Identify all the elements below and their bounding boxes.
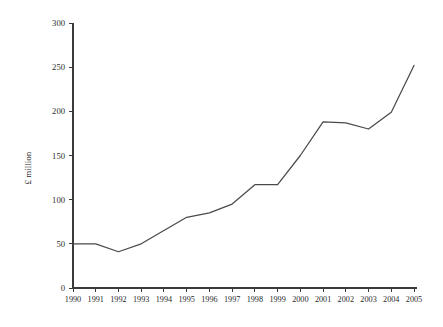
- y-tick-labels: 050100150200250300: [52, 18, 65, 293]
- x-tick-label-1990: 1990: [65, 295, 81, 304]
- x-tick-label-1997: 1997: [224, 295, 240, 304]
- y-tick-label-150: 150: [52, 151, 65, 161]
- x-tick-label-1991: 1991: [88, 295, 104, 304]
- line-chart: 050100150200250300 199019911992199319941…: [0, 0, 443, 327]
- x-tick-label-1996: 1996: [201, 295, 217, 304]
- x-tick-label-2001: 2001: [315, 295, 331, 304]
- data-series-line: [73, 65, 414, 251]
- x-tick-label-2002: 2002: [338, 295, 354, 304]
- x-tick-label-2004: 2004: [383, 295, 399, 304]
- x-tick-label-1999: 1999: [269, 295, 285, 304]
- y-axis-title: £ million: [23, 151, 33, 184]
- y-tick-label-100: 100: [52, 195, 65, 205]
- x-tick-label-2005: 2005: [406, 295, 422, 304]
- x-tick-labels: 1990199119921993199419951996199719981999…: [65, 295, 422, 304]
- y-tick-label-0: 0: [61, 283, 65, 293]
- y-axis: [69, 23, 73, 288]
- y-tick-label-300: 300: [52, 18, 65, 28]
- chart-canvas: 050100150200250300 199019911992199319941…: [0, 0, 443, 327]
- x-tick-label-1992: 1992: [110, 295, 126, 304]
- x-tick-label-1998: 1998: [247, 295, 263, 304]
- x-axis: [73, 288, 417, 292]
- x-tick-label-1994: 1994: [156, 295, 172, 304]
- y-tick-label-50: 50: [56, 239, 65, 249]
- series-polyline-0: [73, 65, 414, 251]
- y-tick-label-200: 200: [52, 106, 65, 116]
- x-tick-label-2003: 2003: [360, 295, 376, 304]
- y-tick-label-250: 250: [52, 62, 65, 72]
- x-tick-label-1995: 1995: [178, 295, 194, 304]
- x-tick-label-2000: 2000: [292, 295, 308, 304]
- y-axis-title-text: £ million: [23, 151, 33, 184]
- x-tick-label-1993: 1993: [133, 295, 149, 304]
